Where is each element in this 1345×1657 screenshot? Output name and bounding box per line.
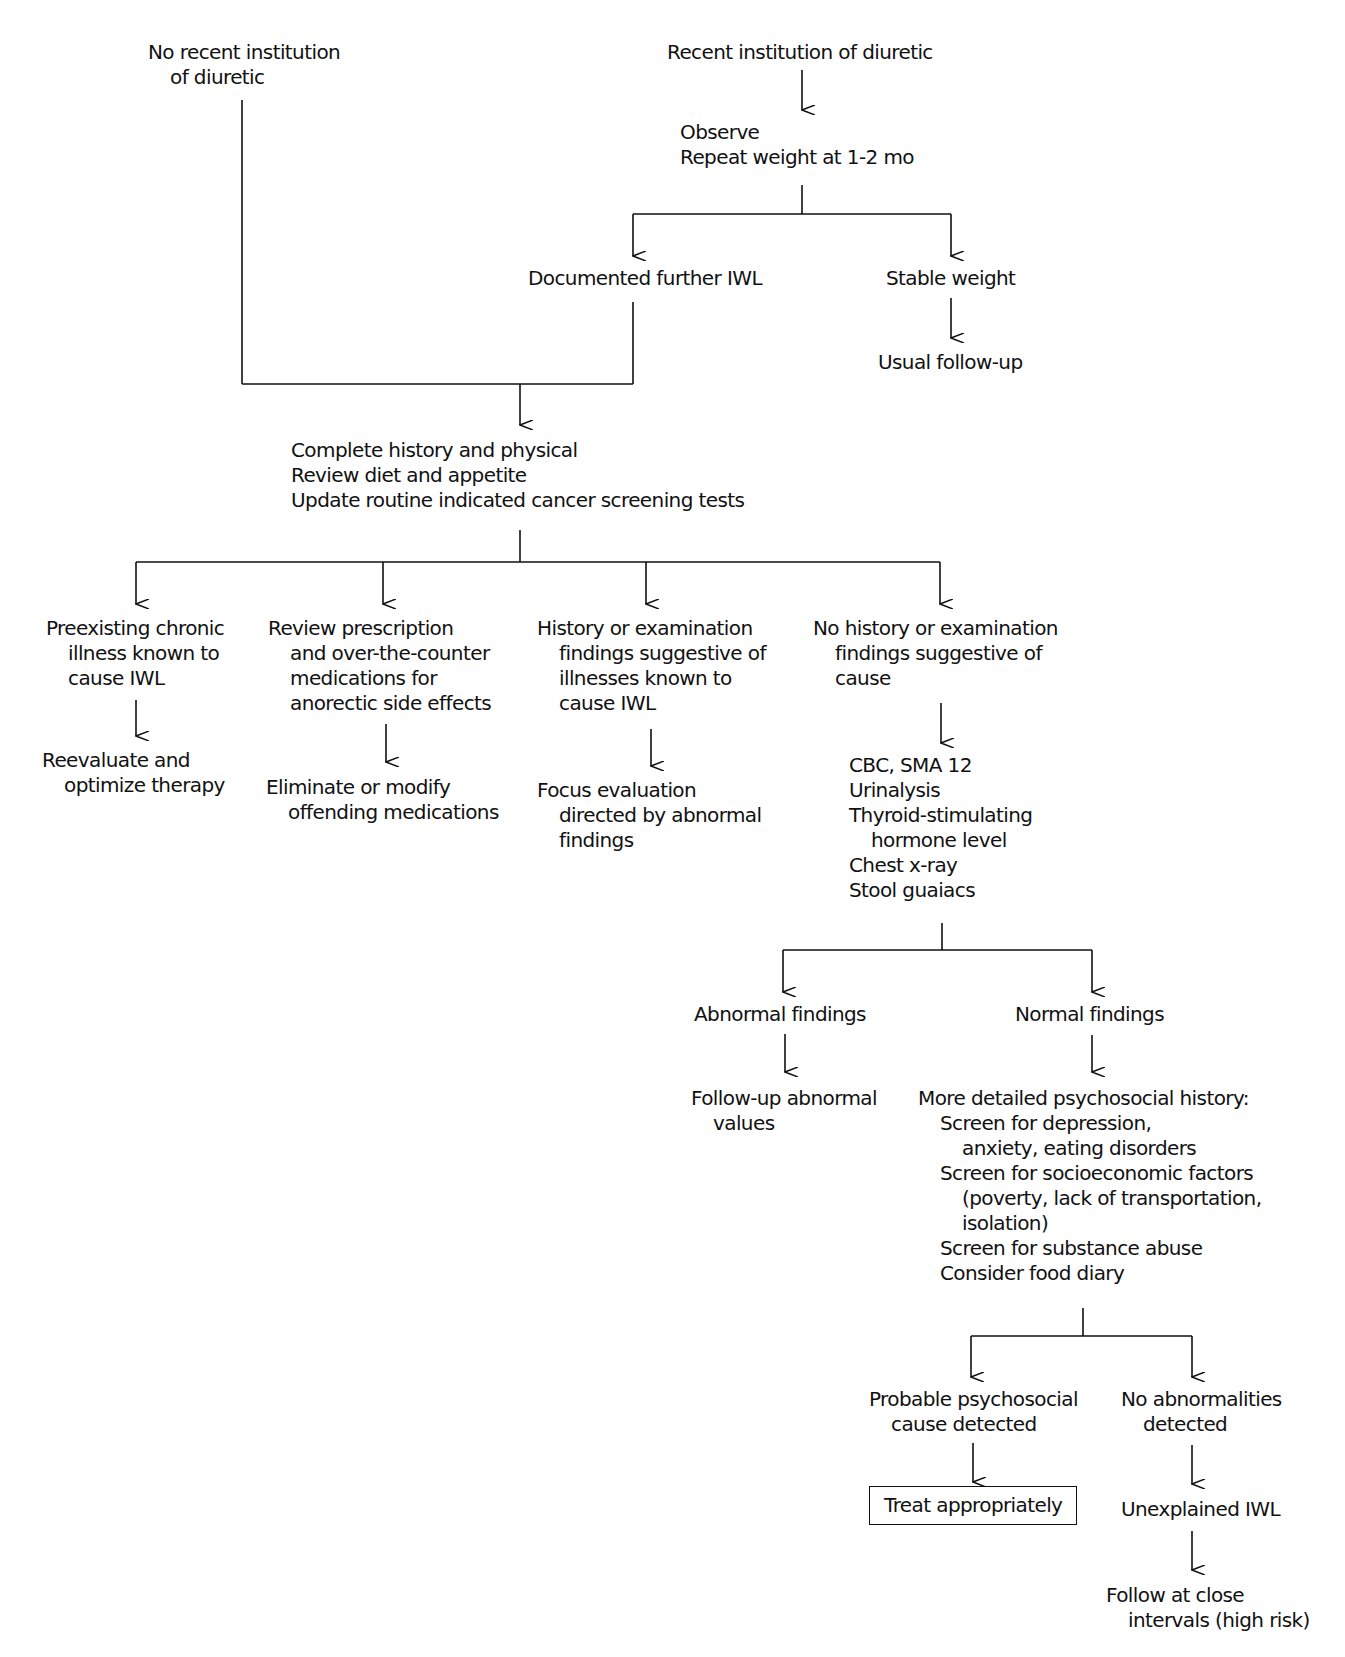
node-no-history: No history or examination findings sugge…	[813, 616, 1058, 691]
node-probable-psychosocial: Probable psychosocial cause detected	[869, 1387, 1078, 1437]
node-text: Preexisting chronic	[46, 616, 224, 641]
node-text: findings suggestive of	[537, 641, 766, 666]
node-text: Consider food diary	[918, 1261, 1261, 1286]
node-preexisting-illness: Preexisting chronic illness known to cau…	[46, 616, 224, 691]
node-history-suggestive: History or examination findings suggesti…	[537, 616, 766, 716]
node-follow-close: Follow at close intervals (high risk)	[1106, 1583, 1310, 1633]
node-reevaluate: Reevaluate and optimize therapy	[42, 748, 225, 798]
node-observe: Observe Repeat weight at 1-2 mo	[680, 120, 914, 170]
node-text: Unexplained IWL	[1121, 1497, 1280, 1522]
node-text: Repeat weight at 1-2 mo	[680, 145, 914, 170]
node-text: Eliminate or modify	[266, 775, 499, 800]
node-text: anxiety, eating disorders	[918, 1136, 1261, 1161]
node-normal-findings: Normal findings	[1015, 1002, 1164, 1027]
node-text: Treat appropriately	[884, 1493, 1062, 1518]
node-text: of diuretic	[148, 65, 340, 90]
node-text: offending medications	[266, 800, 499, 825]
node-text: illnesses known to	[537, 666, 766, 691]
node-complete-history: Complete history and physical Review die…	[291, 438, 744, 513]
flowchart-canvas: No recent institution of diuretic Recent…	[0, 0, 1345, 1657]
node-text: hormone level	[849, 828, 1032, 853]
node-treat-appropriately: Treat appropriately	[869, 1486, 1077, 1525]
node-text: intervals (high risk)	[1106, 1608, 1310, 1633]
node-text: Observe	[680, 120, 914, 145]
node-text: cause detected	[869, 1412, 1078, 1437]
node-text: and over-the-counter	[268, 641, 491, 666]
node-text: cause	[813, 666, 1058, 691]
node-text: Thyroid-stimulating	[849, 803, 1032, 828]
node-text: Documented further IWL	[528, 266, 762, 291]
node-text: No history or examination	[813, 616, 1058, 641]
node-text: Update routine indicated cancer screenin…	[291, 488, 744, 513]
node-text: anorectic side effects	[268, 691, 491, 716]
node-text: cause IWL	[46, 666, 224, 691]
node-review-prescription: Review prescription and over-the-counter…	[268, 616, 491, 716]
node-text: CBC, SMA 12	[849, 753, 1032, 778]
node-recent-diuretic: Recent institution of diuretic	[667, 40, 933, 65]
node-text: Screen for socioeconomic factors	[918, 1161, 1261, 1186]
node-text: History or examination	[537, 616, 766, 641]
node-text: Stable weight	[886, 266, 1015, 291]
node-text: directed by abnormal	[537, 803, 761, 828]
node-no-abnormalities: No abnormalities detected	[1121, 1387, 1282, 1437]
node-text: Chest x-ray	[849, 853, 1032, 878]
node-text: Probable psychosocial	[869, 1387, 1078, 1412]
node-text: Review diet and appetite	[291, 463, 744, 488]
node-text: Screen for substance abuse	[918, 1236, 1261, 1261]
node-usual-followup: Usual follow-up	[878, 350, 1022, 375]
node-no-recent-diuretic: No recent institution of diuretic	[148, 40, 340, 90]
node-text: Urinalysis	[849, 778, 1032, 803]
node-text: medications for	[268, 666, 491, 691]
node-lab-tests: CBC, SMA 12 Urinalysis Thyroid-stimulati…	[849, 753, 1032, 903]
node-text: Follow-up abnormal	[691, 1086, 877, 1111]
node-text: (poverty, lack of transportation,	[918, 1186, 1261, 1211]
node-psychosocial: More detailed psychosocial history: Scre…	[918, 1086, 1261, 1286]
node-text: No abnormalities	[1121, 1387, 1282, 1412]
node-text: Stool guaiacs	[849, 878, 1032, 903]
node-abnormal-findings: Abnormal findings	[694, 1002, 866, 1027]
node-text: Usual follow-up	[878, 350, 1022, 375]
node-text: Focus evaluation	[537, 778, 761, 803]
node-text: isolation)	[918, 1211, 1261, 1236]
node-eliminate-meds: Eliminate or modify offending medication…	[266, 775, 499, 825]
node-text: values	[691, 1111, 877, 1136]
node-stable-weight: Stable weight	[886, 266, 1015, 291]
node-text: findings suggestive of	[813, 641, 1058, 666]
node-followup-abnormal: Follow-up abnormal values	[691, 1086, 877, 1136]
node-text: detected	[1121, 1412, 1282, 1437]
node-text: findings	[537, 828, 761, 853]
node-text: optimize therapy	[42, 773, 225, 798]
node-unexplained-iwl: Unexplained IWL	[1121, 1497, 1280, 1522]
node-text: Reevaluate and	[42, 748, 225, 773]
node-focus-evaluation: Focus evaluation directed by abnormal fi…	[537, 778, 761, 853]
node-text: illness known to	[46, 641, 224, 666]
node-text: No recent institution	[148, 40, 340, 65]
node-text: cause IWL	[537, 691, 766, 716]
node-text: Complete history and physical	[291, 438, 744, 463]
node-text: Review prescription	[268, 616, 491, 641]
node-text: More detailed psychosocial history:	[918, 1086, 1261, 1111]
node-text: Recent institution of diuretic	[667, 40, 933, 65]
node-text: Normal findings	[1015, 1002, 1164, 1027]
node-text: Screen for depression,	[918, 1111, 1261, 1136]
node-text: Abnormal findings	[694, 1002, 866, 1027]
node-documented-iwl: Documented further IWL	[528, 266, 762, 291]
node-text: Follow at close	[1106, 1583, 1310, 1608]
